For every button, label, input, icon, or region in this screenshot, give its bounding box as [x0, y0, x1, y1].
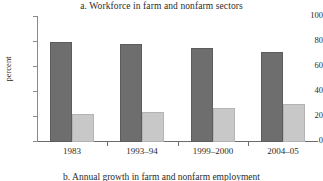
- y-tick-mark: [33, 41, 38, 42]
- y-tick-mark: [33, 16, 38, 17]
- y-tick-label: 100: [295, 10, 323, 20]
- x-axis-label: 1999–2000: [178, 146, 248, 156]
- bar-nonfarm-2004-05: [283, 104, 305, 142]
- y-tick-label: 60: [295, 60, 323, 70]
- bar-nonfarm-1999-2000: [213, 108, 235, 142]
- y-tick-mark: [33, 91, 38, 92]
- bar-farm-1983: [50, 42, 72, 142]
- y-tick-label: 80: [295, 35, 323, 45]
- x-axis-label: 1983: [37, 146, 107, 156]
- bar-farm-1999-2000: [191, 48, 213, 142]
- next-panel-title: b. Annual growth in farm and nonfarm emp…: [0, 172, 323, 181]
- y-tick-mark: [33, 116, 38, 117]
- y-tick-label: 40: [295, 85, 323, 95]
- bar-farm-1993-94: [120, 44, 142, 142]
- y-tick-mark: [33, 66, 38, 67]
- y-axis-line: [37, 16, 38, 142]
- chart-figure: a. Workforce in farm and nonfarm sectors…: [0, 0, 323, 181]
- y-tick-mark: [33, 141, 38, 142]
- x-axis-label: 1993–94: [107, 146, 177, 156]
- bar-nonfarm-1993-94: [142, 112, 164, 142]
- bar-nonfarm-1983: [72, 114, 94, 142]
- x-axis-label: 2004–05: [248, 146, 318, 156]
- bar-farm-2004-05: [261, 52, 283, 142]
- y-axis-title: percent: [3, 43, 13, 95]
- plot-area: 020406080100 percent 19831993–941999–200…: [0, 0, 323, 181]
